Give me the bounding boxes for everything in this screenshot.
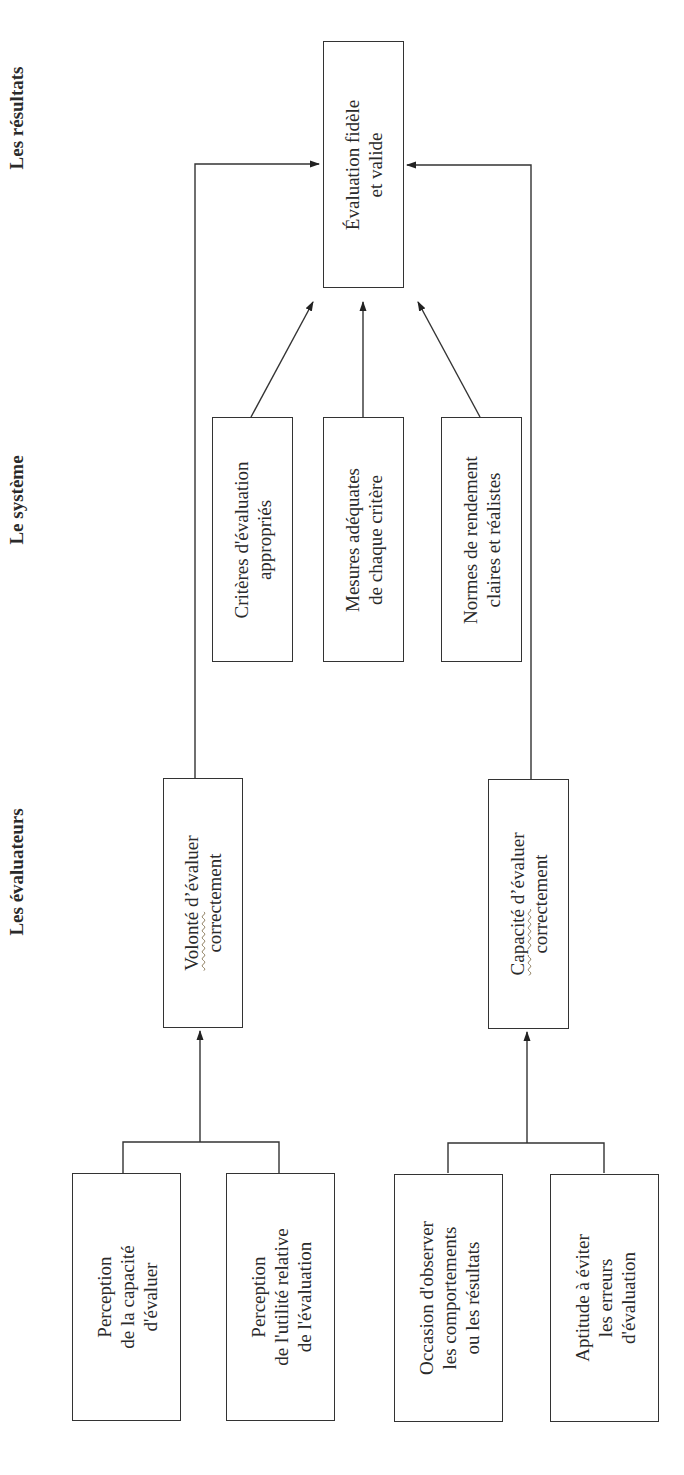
result-box: Évaluation fidèle et valide	[323, 41, 404, 288]
factor-box-perception-utilite: Perception de l'utilité relative de l'év…	[226, 1173, 335, 1421]
volonte-line-2: correctement	[203, 835, 226, 970]
factor4-line-1: Aptitude à éviter	[570, 1234, 593, 1362]
volonte-underlined-word: Volonté	[181, 912, 202, 971]
system-box-criteres: Critères d'évaluation appropriés	[212, 417, 293, 662]
capacite-underlined-word: Capacité	[507, 909, 528, 975]
factor1-line-3: d'évaluer	[138, 1245, 161, 1348]
arrow-normes-to-result	[418, 302, 480, 417]
factor3-line-2: les comportements	[437, 1221, 460, 1375]
criteres-line-2: appropriés	[253, 461, 276, 618]
header-results: Les résultats	[6, 67, 28, 170]
normes-line-1: Normes de rendement	[459, 456, 482, 624]
factor-box-perception-capacite: Perception de la capacité d'évaluer	[72, 1173, 181, 1421]
factor-box-aptitude: Aptitude à éviter les erreurs d'évaluati…	[550, 1174, 659, 1422]
factor3-line-3: ou les résultats	[460, 1221, 483, 1375]
factor-box-occasion: Occasion d'observer les comportements ou…	[394, 1174, 503, 1422]
evaluator-box-volonte: Volonté d’évaluer correctement	[163, 778, 243, 1028]
evaluator-box-capacite: Capacité d’évaluer correctement	[488, 779, 569, 1029]
normes-line-2: claires et réalistes	[482, 456, 505, 624]
result-line-1: Évaluation fidèle	[341, 99, 364, 229]
arrow-criteres-to-result	[251, 302, 313, 417]
factor4-line-3: d'évaluation	[616, 1234, 639, 1362]
header-evaluators: Les évaluateurs	[6, 808, 28, 935]
volonte-line-1: Volonté d’évaluer	[180, 835, 203, 970]
criteres-line-1: Critères d'évaluation	[230, 461, 253, 618]
mesures-line-1: Mesures adéquates	[341, 467, 364, 611]
system-box-normes: Normes de rendement claires et réalistes	[441, 417, 522, 662]
header-system: Le système	[6, 455, 28, 544]
factor2-line-1: Perception	[246, 1228, 269, 1365]
factor1-line-2: de la capacité	[115, 1245, 138, 1348]
factor2-line-3: de l'évaluation	[292, 1228, 315, 1365]
factor4-line-2: les erreurs	[593, 1234, 616, 1362]
capacite-line-2: correctement	[529, 833, 552, 976]
factor3-line-1: Occasion d'observer	[414, 1221, 437, 1375]
factor2-line-2: de l'utilité relative	[269, 1228, 292, 1365]
bracket-capacite	[448, 1143, 604, 1173]
bracket-volonte	[123, 1142, 279, 1173]
result-line-2: et valide	[364, 99, 387, 229]
system-box-mesures: Mesures adéquates de chaque critère	[323, 417, 404, 662]
capacite-line-1: Capacité d’évaluer	[506, 833, 529, 976]
mesures-line-2: de chaque critère	[364, 467, 387, 611]
factor1-line-1: Perception	[92, 1245, 115, 1348]
